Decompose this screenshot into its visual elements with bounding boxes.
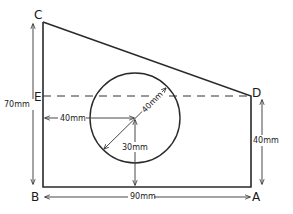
dim-label-hole-y: 30mm bbox=[122, 143, 148, 152]
dim-label-diameter: 40mm bbox=[140, 90, 165, 115]
dim-label-hole-x: 40mm bbox=[60, 114, 86, 123]
vertex-label-E: E bbox=[34, 90, 42, 104]
dim-label-70mm: 70mm bbox=[4, 100, 30, 109]
diagram-canvas: 70mm 40mm 90mm 40mm 30mm 40mm C E D B A bbox=[0, 0, 293, 214]
vertex-label-A: A bbox=[252, 190, 261, 204]
plate-drawing: 70mm 40mm 90mm 40mm 30mm 40mm C E D B A bbox=[0, 0, 293, 214]
vertex-label-C: C bbox=[34, 8, 42, 22]
dim-label-40mm-right: 40mm bbox=[253, 136, 279, 145]
dim-label-90mm: 90mm bbox=[130, 192, 156, 201]
vertex-label-D: D bbox=[252, 86, 261, 100]
vertex-label-B: B bbox=[31, 190, 39, 204]
